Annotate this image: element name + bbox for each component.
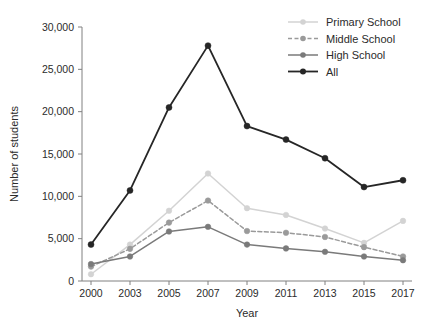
y-tick-label: 5,000 (48, 232, 74, 244)
y-tick-label: 0 (68, 275, 74, 287)
data-point (400, 218, 406, 224)
legend-swatch-marker (300, 69, 306, 75)
data-point (205, 198, 211, 204)
data-point (127, 254, 133, 260)
data-point (205, 171, 211, 177)
data-point (283, 212, 289, 218)
data-point (400, 257, 406, 263)
legend-swatch-marker (300, 52, 306, 58)
legend-item-middle-school[interactable]: Middle School (288, 33, 395, 45)
data-point (244, 242, 250, 248)
legend-label: Middle School (326, 33, 395, 45)
data-point (283, 137, 289, 143)
x-tick-label: 2015 (352, 287, 376, 299)
x-tick-label: 2011 (275, 287, 298, 299)
legend-item-primary-school[interactable]: Primary School (288, 16, 401, 28)
x-axis-ticks: 200020032005200720092011201320152017 (79, 281, 415, 299)
series-layer (88, 43, 406, 277)
data-point (361, 244, 367, 250)
y-tick-label: 15,000 (42, 148, 74, 160)
data-point (322, 234, 328, 240)
x-tick-label: 2007 (196, 287, 220, 299)
data-point (88, 242, 94, 248)
series-line (91, 46, 403, 245)
data-point (322, 226, 328, 232)
y-tick-label: 10,000 (42, 190, 74, 202)
x-axis-title: Year (236, 307, 259, 319)
x-tick-label: 2003 (118, 287, 142, 299)
data-point (361, 254, 367, 260)
y-tick-label: 20,000 (42, 105, 74, 117)
data-point (205, 224, 211, 230)
data-point (166, 229, 172, 235)
data-point (166, 220, 172, 226)
x-tick-label: 2009 (235, 287, 259, 299)
legend-swatch-marker (300, 36, 306, 42)
series-line (91, 173, 403, 274)
legend-item-all[interactable]: All (288, 66, 338, 78)
x-tick-label: 2013 (313, 287, 337, 299)
data-point (166, 104, 172, 110)
data-point (88, 261, 94, 267)
chart-legend: Primary SchoolMiddle SchoolHigh SchoolAl… (288, 16, 401, 78)
x-tick-label: 2000 (79, 287, 103, 299)
line-chart-canvas: 05,00010,00015,00020,00025,00030,000 200… (0, 0, 430, 335)
data-point (283, 246, 289, 252)
data-point (205, 43, 211, 49)
y-tick-label: 25,000 (42, 63, 74, 75)
chart-figure: 05,00010,00015,00020,00025,00030,000 200… (0, 0, 430, 335)
data-point (88, 271, 94, 277)
y-axis-title: Number of students (8, 106, 20, 202)
legend-swatch-marker (300, 19, 306, 25)
data-point (244, 228, 250, 234)
data-point (283, 230, 289, 236)
data-point (244, 205, 250, 211)
data-point (127, 246, 133, 252)
data-point (322, 155, 328, 161)
y-axis-ticks: 05,00010,00015,00020,00025,00030,000 (42, 21, 82, 287)
data-point (322, 249, 328, 255)
legend-label: Primary School (326, 16, 401, 28)
data-point (361, 184, 367, 190)
data-point (127, 187, 133, 193)
data-point (400, 177, 406, 183)
legend-label: High School (326, 49, 385, 61)
x-tick-label: 2005 (157, 287, 181, 299)
legend-label: All (326, 66, 338, 78)
y-tick-label: 30,000 (42, 21, 74, 33)
series-primary-school (88, 171, 406, 277)
x-tick-label: 2017 (391, 287, 415, 299)
series-all (88, 43, 406, 248)
data-point (166, 208, 172, 214)
legend-item-high-school[interactable]: High School (288, 49, 385, 61)
data-point (244, 123, 250, 129)
